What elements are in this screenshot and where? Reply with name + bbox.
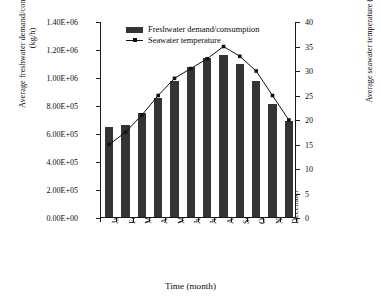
legend-item-freshwater-demand: Freshwater demand/consumption (126, 24, 259, 35)
y-axis-right-title: Average seawater temperature (°C) (365, 0, 375, 135)
line-marker: April: 25 °C (156, 94, 160, 98)
y-axis-right-tick-label: 10 (305, 165, 329, 174)
bar (170, 81, 178, 218)
y-axis-right-tick-mark (296, 22, 300, 23)
line-marker-swatch-icon (126, 38, 143, 44)
y-axis-left-tick-label: 0.00E+00 (18, 214, 78, 223)
bar (105, 127, 113, 217)
x-axis-tick-mark (100, 218, 101, 222)
bar (203, 58, 211, 217)
y-axis-right-tick-label: 5 (305, 189, 329, 198)
legend-label-freshwater-demand: Freshwater demand/consumption (148, 24, 259, 35)
y-axis-left-tick-label: 2.00E+05 (18, 186, 78, 195)
y-axis-right-tick-mark (296, 71, 300, 72)
y-axis-right-tick-label: 20 (305, 116, 329, 125)
y-axis-right-tick-mark (296, 169, 300, 170)
y-axis-left-tick-label: 1.40E+06 (18, 18, 78, 27)
y-axis-left-tick-label: 8.00E+05 (18, 102, 78, 111)
y-axis-right-tick-mark (296, 120, 300, 121)
y-axis-right-tick-mark (296, 96, 300, 97)
y-axis-right-tick-mark (296, 145, 300, 146)
line-markers: January: 15 °CFebruary: 17.5 °CMarch: 21… (107, 45, 290, 147)
bar (252, 81, 260, 218)
y-axis-right-tick-label: 25 (305, 91, 329, 100)
x-axis-title: Time (month) (0, 281, 381, 291)
y-axis-right-tick-label: 40 (305, 18, 329, 27)
y-axis-right-tick-label: 35 (305, 42, 329, 51)
bar (154, 98, 162, 217)
plot-area: January: 15 °CFebruary: 17.5 °CMarch: 21… (100, 22, 296, 218)
chart-legend: Freshwater demand/consumption Seawater t… (126, 24, 259, 46)
bar-swatch-icon (126, 27, 143, 33)
line-marker: October: 30 °C (254, 69, 258, 73)
bar (285, 121, 293, 217)
chart-figure: Average freshwater demand/consumption (k… (0, 0, 381, 299)
bar (121, 125, 129, 217)
bar (268, 104, 276, 217)
bar (219, 55, 227, 217)
legend-item-seawater-temperature: Seawater temperature (126, 35, 259, 46)
y-axis-left-tick-label: 4.00E+05 (18, 158, 78, 167)
bar (236, 64, 244, 217)
bar (138, 113, 146, 217)
bar (187, 67, 195, 217)
y-axis-right-tick-label: 15 (305, 140, 329, 149)
legend-label-seawater-temperature: Seawater temperature (148, 35, 221, 46)
y-axis-left-tick-label: 1.20E+06 (18, 46, 78, 55)
y-axis-right-tick-mark (296, 47, 300, 48)
y-axis-left-tick-label: 1.00E+06 (18, 74, 78, 83)
line-marker: November: 25 °C (271, 94, 275, 98)
y-axis-left-tick-label: 6.00E+05 (18, 130, 78, 139)
y-axis-right-tick-label: 0 (305, 214, 329, 223)
y-axis-right-tick-label: 30 (305, 67, 329, 76)
line-marker: September: 33 °C (238, 55, 242, 59)
